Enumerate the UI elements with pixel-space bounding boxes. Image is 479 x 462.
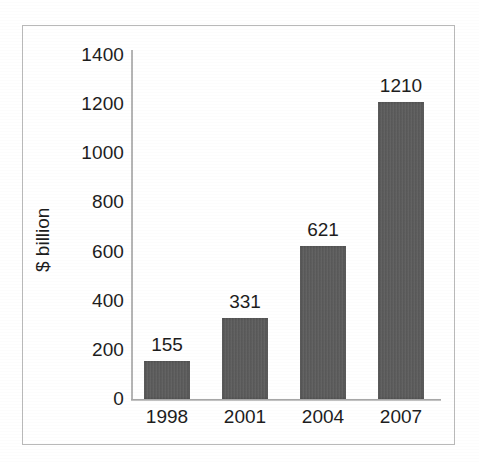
bar-value-label: 155 — [122, 334, 212, 356]
x-axis-category-label: 1998 — [122, 406, 212, 428]
bar-chart: $ billion 1400 1200 1000 800 600 400 200… — [0, 0, 479, 462]
y-tick-label: 0 — [60, 388, 124, 410]
bar-value-label: 1210 — [356, 75, 446, 97]
y-tick-label: 1400 — [60, 44, 124, 66]
y-tick-label: 1000 — [60, 142, 124, 164]
y-tick-label: 600 — [60, 241, 124, 263]
y-tick-label: 800 — [60, 191, 124, 213]
x-axis-category-label: 2004 — [278, 406, 368, 428]
bar — [378, 102, 424, 399]
y-axis-title: $ billion — [30, 168, 52, 278]
bar — [222, 318, 268, 399]
bar — [144, 361, 190, 399]
bar — [300, 246, 346, 399]
scanned-page: $ billion 1400 1200 1000 800 600 400 200… — [0, 0, 479, 462]
y-tick-label: 1200 — [60, 93, 124, 115]
x-axis-line — [131, 399, 441, 401]
y-tick-label: 200 — [60, 339, 124, 361]
bar-value-label: 331 — [200, 291, 290, 313]
y-axis-title-label: $ billion — [32, 208, 54, 272]
x-axis-category-label: 2001 — [200, 406, 290, 428]
x-axis-category-label: 2007 — [356, 406, 446, 428]
bar-value-label: 621 — [278, 219, 368, 241]
y-tick-label: 400 — [60, 290, 124, 312]
